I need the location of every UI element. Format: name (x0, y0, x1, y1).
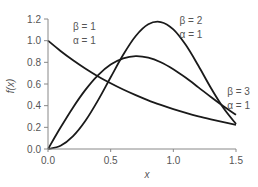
series-line-2 (48, 56, 236, 149)
x-tick-label: 1.5 (229, 155, 243, 166)
y-tick-label: 0.8 (27, 57, 41, 68)
annotation-alpha: α = 1 (73, 35, 96, 46)
y-tick-label: 1.2 (27, 14, 41, 25)
y-axis: 0.00.20.40.60.81.01.2 f(x) (5, 14, 48, 155)
weibull-pdf-chart: 0.00.20.40.60.81.01.2 f(x) 0.00.51.01.5 … (0, 0, 258, 187)
y-tick-label: 0.6 (27, 79, 41, 90)
annotation-alpha: α = 1 (227, 100, 250, 111)
x-tick-label: 0.5 (104, 155, 118, 166)
y-tick-label: 0.4 (27, 100, 41, 111)
x-tick-label: 1.0 (166, 155, 180, 166)
y-tick-label: 0.2 (27, 122, 41, 133)
y-tick-label: 0.0 (27, 144, 41, 155)
y-tick-label: 1.0 (27, 35, 41, 46)
x-tick-label: 0.0 (41, 155, 55, 166)
y-axis-label: f(x) (5, 79, 16, 93)
annotation-alpha: α = 1 (180, 29, 203, 40)
annotation-beta: β = 3 (227, 86, 250, 97)
x-axis: 0.00.51.01.5 x (41, 149, 243, 180)
annotation-beta: β = 1 (73, 21, 96, 32)
annotation-beta: β = 2 (180, 15, 203, 26)
x-axis-label: x (144, 169, 151, 180)
